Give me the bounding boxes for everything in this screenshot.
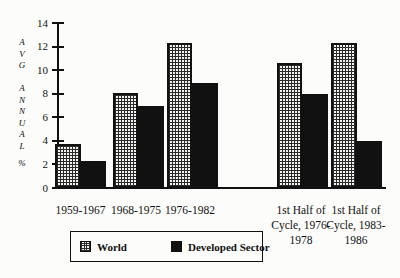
legend: World Developed Sector xyxy=(70,231,263,262)
legend-label-world: World xyxy=(97,241,127,253)
y-tick-label-14: 14 xyxy=(16,16,48,31)
bar-world-5 xyxy=(331,43,357,188)
world-swatch xyxy=(80,241,91,252)
y-tick-label-10: 10 xyxy=(16,63,48,78)
legend-label-developed-sector: Developed Sector xyxy=(188,241,270,253)
y-tick-label-4: 4 xyxy=(16,133,48,148)
y-tick-8 xyxy=(52,93,64,95)
y-tick-4 xyxy=(52,140,64,142)
developed-sector-swatch xyxy=(171,241,182,252)
bar-world-3 xyxy=(167,43,193,188)
bar-developed-sector-3 xyxy=(192,83,218,188)
y-tick-label-6: 6 xyxy=(16,110,48,125)
y-tick-14 xyxy=(52,22,64,24)
bar-developed-sector-2 xyxy=(138,106,164,188)
bar-world-2 xyxy=(113,93,139,188)
y-tick-label-0: 0 xyxy=(16,181,48,196)
y-tick-label-2: 2 xyxy=(16,157,48,172)
y-tick-label-8: 8 xyxy=(16,86,48,101)
bar-world-4 xyxy=(277,63,303,188)
y-tick-label-12: 12 xyxy=(16,39,48,54)
x-category-label-5: 1st Half of Cycle, 1983- 1986 xyxy=(324,203,388,248)
bar-developed-sector-1 xyxy=(81,161,107,188)
bar-developed-sector-5 xyxy=(357,141,383,188)
y-tick-10 xyxy=(52,69,64,71)
bar-chart: A V G A N N U A L % 02468101214 1959-196… xyxy=(0,0,400,278)
y-tick-6 xyxy=(52,116,64,118)
x-category-label-1: 1959-1967 xyxy=(49,203,113,218)
bar-world-1 xyxy=(55,144,81,188)
x-category-label-3: 1976-1982 xyxy=(158,203,222,218)
bar-developed-sector-4 xyxy=(302,94,328,188)
y-tick-12 xyxy=(52,46,64,48)
legend-item-world: World xyxy=(80,241,127,253)
legend-item-developed-sector: Developed Sector xyxy=(171,241,270,253)
